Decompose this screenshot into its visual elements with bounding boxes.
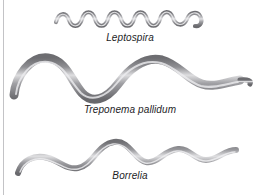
species-label-leptospira: Leptospira [0,32,260,44]
species-label-borrelia: Borrelia [0,170,260,182]
borrelia-filament [18,142,236,173]
treponema-filament [14,58,240,99]
organism-panel-treponema: Treponema pallidum [0,48,260,120]
organism-panel-leptospira: Leptospira [0,0,260,48]
species-label-treponema: Treponema pallidum [0,104,260,116]
organism-panel-borrelia: Borrelia [0,120,260,195]
borrelia-illustration [0,120,260,195]
spirochete-comparison-figure: Leptospira Treponema pallidum [0,0,260,195]
